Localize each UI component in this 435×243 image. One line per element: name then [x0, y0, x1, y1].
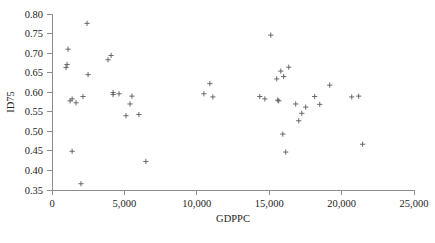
data-point: [262, 96, 267, 101]
x-axis-title: GDPPC: [216, 213, 250, 224]
data-point: [116, 91, 121, 96]
y-tick-label: 0.35: [25, 185, 43, 196]
y-tick-label: 0.55: [25, 106, 43, 117]
y-axis-title: ID75: [5, 91, 16, 113]
data-point: [123, 113, 128, 118]
chart-canvas: 0.350.400.450.500.550.600.650.700.750.80…: [0, 0, 435, 243]
data-point: [207, 81, 212, 86]
data-point: [356, 94, 361, 99]
data-point: [275, 97, 280, 102]
x-tick-label: 5,000: [113, 198, 137, 209]
data-point: [63, 65, 68, 70]
x-axis-group: 05,00010,00015,00020,00025,000: [49, 190, 428, 209]
data-point: [360, 142, 365, 147]
y-axis-tick-labels: 0.350.400.450.500.550.600.650.700.750.80: [25, 9, 43, 196]
y-tick-label: 0.65: [25, 67, 43, 78]
data-point: [280, 131, 285, 136]
data-point: [278, 69, 283, 74]
data-point: [108, 53, 113, 58]
y-tick-label: 0.60: [25, 87, 43, 98]
data-point: [65, 47, 70, 52]
data-point: [70, 149, 75, 154]
data-point: [268, 33, 273, 38]
data-point: [143, 159, 148, 164]
data-point: [327, 83, 332, 88]
y-axis-group: 0.350.400.450.500.550.600.650.700.750.80: [25, 9, 52, 196]
data-point: [85, 72, 90, 77]
data-point: [299, 111, 304, 116]
y-tick-label: 0.80: [25, 9, 43, 20]
data-point: [210, 94, 215, 99]
data-point: [317, 102, 322, 107]
data-point: [127, 101, 132, 106]
y-tick-label: 0.40: [25, 165, 43, 176]
data-point: [286, 65, 291, 70]
data-point: [84, 21, 89, 26]
x-axis-ticks: [52, 190, 414, 195]
scatter-chart: 0.350.400.450.500.550.600.650.700.750.80…: [0, 0, 435, 243]
y-axis-ticks: [47, 14, 52, 190]
y-tick-label: 0.50: [25, 126, 43, 137]
data-point: [201, 91, 206, 96]
data-point: [281, 74, 286, 79]
data-point: [257, 94, 262, 99]
data-point: [293, 101, 298, 106]
data-point-markers: [63, 21, 365, 187]
y-tick-label: 0.45: [25, 145, 43, 156]
data-point: [276, 98, 281, 103]
data-point: [73, 100, 78, 105]
x-tick-label: 20,000: [327, 198, 356, 209]
data-point: [312, 94, 317, 99]
data-point: [296, 118, 301, 123]
data-point: [129, 94, 134, 99]
x-tick-label: 15,000: [255, 198, 284, 209]
data-point: [274, 76, 279, 81]
x-tick-label: 10,000: [182, 198, 211, 209]
data-point: [105, 57, 110, 62]
data-point: [78, 181, 83, 186]
data-point: [64, 62, 69, 67]
data-point: [303, 104, 308, 109]
data-point: [349, 94, 354, 99]
x-axis-tick-labels: 05,00010,00015,00020,00025,000: [49, 198, 428, 209]
y-tick-label: 0.70: [25, 48, 43, 59]
y-tick-label: 0.75: [25, 28, 43, 39]
data-point: [283, 149, 288, 154]
data-point: [136, 112, 141, 117]
x-tick-label: 25,000: [400, 198, 429, 209]
data-point: [80, 94, 85, 99]
x-tick-label: 0: [49, 198, 54, 209]
